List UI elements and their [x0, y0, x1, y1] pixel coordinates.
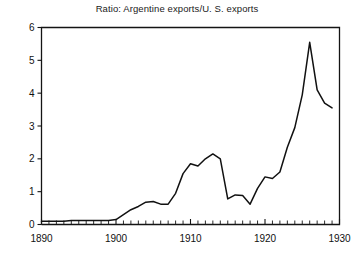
series-line-0 [42, 42, 333, 221]
y-tick-label-0: 0 [29, 219, 35, 230]
data-series-group [42, 42, 333, 221]
chart-figure: Ratio: Argentine exports/U. S. exports 0… [0, 0, 354, 277]
y-tick-label-2: 2 [29, 153, 35, 164]
x-tick-label-1900: 1900 [105, 233, 128, 244]
x-tick-label-1930: 1930 [328, 233, 351, 244]
y-tick-label-1: 1 [29, 186, 35, 197]
x-tick-label-1890: 1890 [30, 233, 53, 244]
x-tick-label-1910: 1910 [179, 233, 202, 244]
x-tick-label-1920: 1920 [254, 233, 277, 244]
tick-marks-group [38, 28, 340, 225]
y-tick-label-5: 5 [29, 55, 35, 66]
tick-labels-group: 012345618901900191019201930 [29, 22, 351, 243]
chart-plot-area: 012345618901900191019201930 [0, 0, 354, 277]
y-tick-label-3: 3 [29, 121, 35, 132]
y-tick-label-4: 4 [29, 88, 35, 99]
y-tick-label-6: 6 [29, 22, 35, 33]
